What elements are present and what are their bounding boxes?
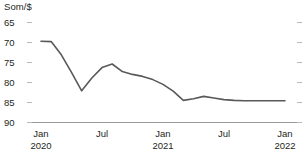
x-tick-label-4: Jan [277,128,292,139]
x-tick-year-4: 2022 [274,140,295,151]
x-tick-label-2: Jan [155,128,170,139]
x-tick-label-0: Jan [33,128,48,139]
x-tick-year-0: 2020 [30,140,51,151]
x-tick-label-3: Jul [218,128,230,139]
x-tick-year-2: 2021 [152,140,173,151]
x-tick-label-1: Jul [96,128,108,139]
data-series-line [41,41,285,101]
chart-container: Som/$ 65 70 75 80 85 90 Jan 2020 Jul Jan… [0,0,305,155]
